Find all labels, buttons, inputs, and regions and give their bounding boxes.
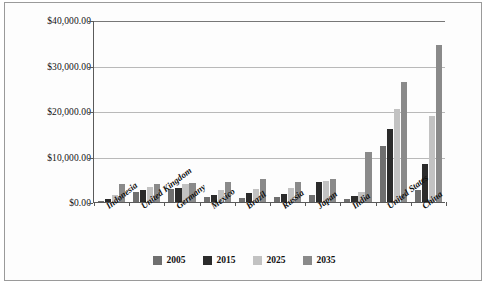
bar <box>344 199 350 202</box>
bar <box>133 192 139 202</box>
legend-swatch-icon <box>303 256 312 265</box>
bar <box>394 109 400 202</box>
legend-swatch-icon <box>253 256 262 265</box>
chart-legend: 2005201520252035 <box>5 255 483 265</box>
legend-swatch-icon <box>153 256 162 265</box>
bar-group <box>376 21 411 202</box>
legend-label: 2005 <box>167 255 186 265</box>
legend-swatch-icon <box>203 256 212 265</box>
legend-label: 2015 <box>217 255 236 265</box>
legend-item[interactable]: 2005 <box>153 255 186 265</box>
legend-label: 2035 <box>317 255 336 265</box>
y-axis-tick <box>88 158 93 159</box>
bars-layer <box>94 21 445 202</box>
y-axis-tick-label: $30,000.00 <box>7 62 91 72</box>
bar-group <box>270 21 305 202</box>
bar <box>436 45 442 202</box>
y-axis-tick <box>88 112 93 113</box>
bar-group <box>235 21 270 202</box>
y-axis-tick-label: $40,000.00 <box>7 16 91 26</box>
x-axis-tick <box>446 202 447 206</box>
bar <box>387 129 393 202</box>
legend-item[interactable]: 2015 <box>203 255 236 265</box>
bar <box>401 82 407 202</box>
bar <box>204 197 210 202</box>
y-axis-tick <box>88 21 93 22</box>
y-axis-tick <box>88 203 93 204</box>
bar <box>309 195 315 202</box>
bar-group <box>411 21 446 202</box>
bar-group <box>340 21 375 202</box>
bar <box>274 197 280 202</box>
y-axis-tick-label: $0.00 <box>7 198 91 208</box>
bar-group <box>305 21 340 202</box>
y-axis-labels: $0.00$10,000.00$20,000.00$30,000.00$40,0… <box>5 21 91 203</box>
y-axis-tick-label: $10,000.00 <box>7 153 91 163</box>
x-axis-labels: IndonesiaUnited KingdomGermanyMexicoBraz… <box>93 203 445 255</box>
legend-label: 2025 <box>267 255 286 265</box>
legend-item[interactable]: 2025 <box>253 255 286 265</box>
plot-area <box>93 21 445 203</box>
bar <box>98 201 104 202</box>
y-axis-tick <box>88 67 93 68</box>
bar <box>429 116 435 202</box>
y-axis-tick-label: $20,000.00 <box>7 107 91 117</box>
bar-group <box>200 21 235 202</box>
bar <box>380 146 386 202</box>
bar-group <box>129 21 164 202</box>
chart-frame: $0.00$10,000.00$20,000.00$30,000.00$40,0… <box>4 2 482 281</box>
bar-group <box>94 21 129 202</box>
legend-item[interactable]: 2035 <box>303 255 336 265</box>
